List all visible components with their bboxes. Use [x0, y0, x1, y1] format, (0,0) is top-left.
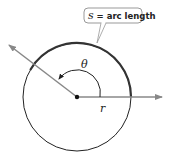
- arc-length-callout: s = arc length: [84, 8, 156, 43]
- callout-text: s = arc length: [88, 9, 156, 22]
- theta-label: θ: [81, 58, 88, 71]
- angle-arc: [59, 70, 100, 97]
- radius-label: r: [100, 102, 106, 115]
- terminal-ray: [9, 45, 77, 97]
- arc-length-diagram: θ r s = arc length: [0, 0, 172, 163]
- center-point: [75, 95, 79, 99]
